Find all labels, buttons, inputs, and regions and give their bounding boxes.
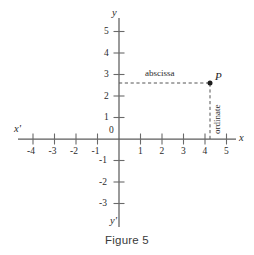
x-tick-label--3: -3 [49, 147, 57, 157]
origin-label: 0 [109, 126, 114, 136]
x-tick-label-4: 4 [203, 147, 208, 157]
y-tick-label--2: -2 [99, 178, 107, 188]
y-tick-label-4: 4 [104, 49, 109, 59]
x-negative-axis-label: x' [14, 124, 21, 135]
x-tick-label-1: 1 [138, 147, 143, 157]
figure-caption: Figure 5 [0, 234, 254, 246]
y-tick-label-2: 2 [104, 92, 109, 102]
y-negative-axis-label: y' [110, 216, 117, 227]
y-tick-label-3: 3 [104, 70, 109, 80]
abscissa-label: abscissa [145, 69, 175, 78]
y-tick-label--3: -3 [99, 199, 107, 209]
y-tick-label-1: 1 [104, 113, 109, 123]
x-tick-label--2: -2 [70, 147, 78, 157]
point-p-label: P [215, 71, 222, 82]
ordinate-label: ordinate [213, 105, 222, 135]
x-axis-label: x [239, 133, 244, 144]
x-tick-label-3: 3 [181, 147, 186, 157]
x-tick-label-5: 5 [224, 147, 229, 157]
x-tick-label--4: -4 [27, 147, 35, 157]
x-tick-label-2: 2 [160, 147, 165, 157]
y-tick-label-5: 5 [104, 27, 109, 37]
figure-5-coordinate-plane: -4 -3 -2 -1 1 2 3 4 5 5 4 3 2 1 -1 -2 -3… [0, 0, 254, 255]
point-p-marker [208, 81, 213, 86]
y-axis-label: y [112, 8, 117, 19]
y-tick-label--1: -1 [99, 156, 107, 166]
